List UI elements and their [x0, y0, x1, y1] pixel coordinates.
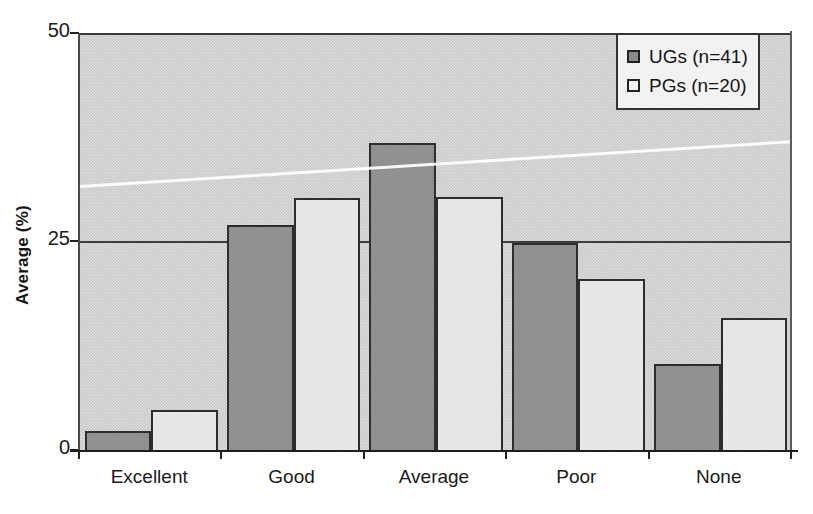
bar-poor-ugs [512, 243, 579, 452]
bar-good-pgs [294, 198, 361, 452]
x-tick-average [363, 450, 365, 459]
bar-average-ugs [369, 143, 436, 452]
legend: UGs (n=41) PGs (n=20) [616, 33, 760, 110]
y-tick-label-25: 25 [26, 228, 70, 248]
x-category-label-excellent: Excellent [78, 466, 220, 488]
legend-entry-ugs: UGs (n=41) [627, 42, 748, 71]
x-category-label-average: Average [363, 466, 505, 488]
y-tick-label-0: 0 [26, 437, 70, 457]
x-tick-none [648, 450, 650, 459]
x-category-label-poor: Poor [505, 466, 647, 488]
bar-excellent-ugs [85, 431, 152, 452]
bar-average-pgs [436, 197, 503, 452]
x-axis-line [70, 450, 798, 452]
x-tick-excellent [78, 450, 80, 459]
bar-none-ugs [654, 364, 721, 452]
legend-label-ugs: UGs (n=41) [649, 47, 748, 66]
legend-swatch-ugs-icon [627, 50, 640, 63]
bar-good-ugs [227, 225, 294, 452]
legend-label-pgs: PGs (n=20) [649, 76, 747, 95]
plot-right-border [790, 31, 792, 452]
bar-poor-pgs [578, 279, 645, 452]
legend-entry-pgs: PGs (n=20) [627, 71, 748, 100]
x-category-label-good: Good [220, 466, 362, 488]
bar-excellent-pgs [151, 410, 218, 452]
x-tick-poor [505, 450, 507, 459]
legend-swatch-pgs-icon [627, 79, 640, 92]
bar-none-pgs [721, 318, 788, 452]
bar-chart: Average (%) 50 25 0 ExcellentGoodAverage… [0, 0, 813, 514]
y-tick-label-50: 50 [26, 20, 70, 40]
y-axis-title: Average (%) [13, 185, 33, 325]
x-category-label-none: None [648, 466, 790, 488]
x-tick-end [790, 450, 792, 459]
x-tick-good [220, 450, 222, 459]
